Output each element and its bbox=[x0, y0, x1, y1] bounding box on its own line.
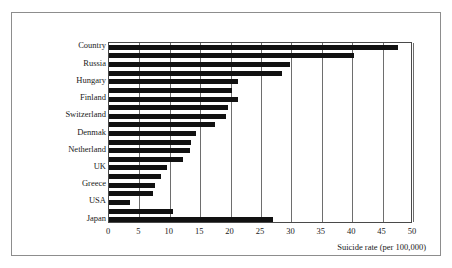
plot-area bbox=[108, 42, 412, 223]
bar bbox=[109, 191, 153, 196]
x-tick-35: 35 bbox=[317, 226, 326, 236]
y-axis-label-country: Country bbox=[24, 41, 106, 50]
x-tick-5: 5 bbox=[136, 226, 140, 236]
y-axis-label-switzerland: Switzerland bbox=[24, 110, 106, 119]
bar bbox=[109, 71, 282, 76]
x-tick-15: 15 bbox=[195, 226, 204, 236]
bar bbox=[109, 131, 196, 136]
bar bbox=[109, 53, 354, 58]
bar-series bbox=[109, 43, 411, 222]
bar bbox=[109, 114, 226, 119]
y-axis-label-denmak: Denmak bbox=[24, 128, 106, 137]
bar bbox=[109, 97, 238, 102]
y-axis-label-greece: Greece bbox=[24, 179, 106, 188]
bar bbox=[109, 157, 183, 162]
x-tick-25: 25 bbox=[256, 226, 265, 236]
x-tick-50: 50 bbox=[408, 226, 417, 236]
bar bbox=[109, 148, 190, 153]
y-axis-label-japan: Japan bbox=[24, 214, 106, 223]
bar bbox=[109, 183, 155, 188]
x-axis-tick-labels: 05101520253035404550 bbox=[108, 226, 412, 240]
x-tick-40: 40 bbox=[347, 226, 356, 236]
x-tick-10: 10 bbox=[165, 226, 174, 236]
y-axis-label-russia: Russia bbox=[24, 59, 106, 68]
bar bbox=[109, 122, 215, 127]
y-axis-labels: CountryRussiaHungaryFinlandSwitzerlandDe… bbox=[24, 31, 106, 231]
bar bbox=[109, 200, 130, 205]
bar bbox=[109, 209, 173, 214]
y-axis-label-netherland: Netherland bbox=[24, 145, 106, 154]
figure-frame: CountryRussiaHungaryFinlandSwitzerlandDe… bbox=[11, 12, 441, 256]
bar bbox=[109, 217, 273, 222]
x-tick-0: 0 bbox=[106, 226, 110, 236]
bar bbox=[109, 105, 228, 110]
y-axis-label-usa: USA bbox=[24, 196, 106, 205]
bar bbox=[109, 45, 398, 50]
bar bbox=[109, 79, 238, 84]
bar bbox=[109, 174, 161, 179]
y-axis-label-finland: Finland bbox=[24, 93, 106, 102]
y-axis-label-hungary: Hungary bbox=[24, 76, 106, 85]
bar bbox=[109, 165, 167, 170]
x-axis-title: Suicide rate (per 100,000) bbox=[337, 242, 426, 252]
bar bbox=[109, 88, 232, 93]
x-tick-30: 30 bbox=[286, 226, 295, 236]
x-tick-20: 20 bbox=[225, 226, 234, 236]
gridline-50 bbox=[413, 43, 414, 222]
x-tick-45: 45 bbox=[377, 226, 386, 236]
bar bbox=[109, 62, 290, 67]
figure-container: CountryRussiaHungaryFinlandSwitzerlandDe… bbox=[0, 0, 452, 268]
bar bbox=[109, 140, 191, 145]
y-axis-label-uk: UK bbox=[24, 162, 106, 171]
